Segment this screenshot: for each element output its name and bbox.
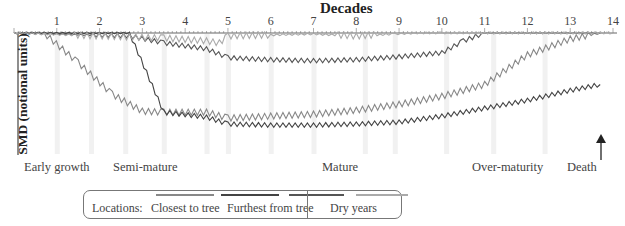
stage-label-mature: Mature	[322, 160, 358, 175]
legend-swatch-closest	[156, 194, 214, 196]
x-tick-label: 3	[139, 14, 145, 28]
legend-swatch-3	[289, 194, 344, 196]
dry-year-band	[55, 34, 60, 154]
dry-year-band	[393, 34, 398, 154]
dry-year-band	[312, 34, 317, 154]
x-tick-label: 4	[182, 14, 188, 28]
x-tick-label: 10	[436, 14, 448, 28]
x-tick-label: 5	[225, 14, 231, 28]
dry-year-band	[226, 34, 231, 154]
x-tick-label: 6	[268, 14, 274, 28]
x-tick-label: 7	[311, 14, 317, 28]
x-tick-label: 14	[607, 14, 619, 28]
series-line-1	[14, 32, 600, 121]
stage-label-over-maturity: Over-maturity	[472, 160, 543, 175]
dry-year-band	[123, 34, 128, 154]
x-tick-label: 12	[521, 14, 533, 28]
legend-locations-label: Locations:	[92, 201, 143, 216]
stage-label-early-growth: Early growth	[24, 160, 90, 175]
legend-dry-years-label: Dry years	[330, 201, 377, 216]
legend-divider	[307, 191, 308, 218]
dry-year-band	[162, 34, 167, 154]
legend-swatch-2	[221, 194, 279, 196]
dry-year-band	[269, 34, 274, 154]
arrow-head-icon	[596, 134, 606, 143]
dry-year-band	[89, 34, 94, 154]
legend-furthest-label: Furthest from tree	[227, 201, 314, 216]
dry-year-band	[205, 34, 210, 154]
legend-closest-label: Closest to tree	[151, 201, 220, 216]
stage-label-death: Death	[567, 160, 597, 175]
legend-swatch-furthest	[356, 194, 408, 196]
legend: Locations: Closest to tree Furthest from…	[83, 190, 402, 219]
series-line-3	[14, 32, 600, 62]
dry-year-band	[491, 34, 496, 154]
y-axis-label: SMD (notional units)	[15, 29, 31, 159]
x-tick-label: 11	[479, 14, 491, 28]
x-tick-label: 13	[564, 14, 576, 28]
x-tick-label: 9	[396, 14, 402, 28]
x-tick-label: 1	[54, 14, 60, 28]
x-tick-label: 2	[97, 14, 103, 28]
x-axis-title: Decades	[320, 0, 373, 17]
stage-label-semi-mature: Semi-mature	[113, 160, 178, 175]
dry-year-band	[363, 34, 368, 154]
